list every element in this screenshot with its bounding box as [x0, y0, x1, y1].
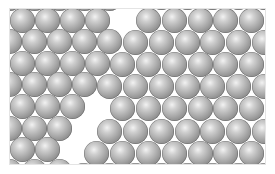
right-grain-sphere	[110, 96, 135, 121]
right-grain-sphere	[162, 96, 187, 121]
right-grain-sphere	[175, 30, 200, 55]
right-grain-sphere	[188, 52, 213, 77]
right-grain-sphere	[123, 119, 148, 144]
right-grain-sphere	[136, 9, 161, 33]
lattice-frame	[10, 9, 265, 164]
left-grain-sphere	[60, 94, 85, 119]
right-grain-sphere	[226, 74, 251, 99]
right-grain-sphere	[213, 52, 238, 77]
right-grain-sphere	[188, 96, 213, 121]
right-grain-sphere	[213, 96, 238, 121]
right-grain-sphere	[149, 74, 174, 99]
right-grain-sphere	[84, 141, 109, 164]
right-grain-sphere	[175, 74, 200, 99]
left-grain-sphere	[35, 94, 60, 119]
right-grain-sphere	[200, 119, 225, 144]
right-grain-sphere	[110, 141, 135, 164]
right-grain-sphere	[162, 9, 187, 33]
right-grain-sphere	[123, 74, 148, 99]
right-grain-sphere	[136, 52, 161, 77]
right-grain-sphere	[188, 141, 213, 164]
right-grain-sphere	[162, 141, 187, 164]
right-grain-sphere	[110, 52, 135, 77]
right-grain-sphere	[97, 74, 122, 99]
right-grain-sphere	[136, 141, 161, 164]
right-grain-sphere	[136, 96, 161, 121]
right-grain-sphere	[97, 119, 122, 144]
left-grain-sphere	[10, 94, 35, 119]
right-grain-sphere	[123, 30, 148, 55]
right-grain-sphere	[239, 9, 264, 33]
right-grain-sphere	[200, 30, 225, 55]
left-grain-sphere	[47, 29, 72, 54]
right-grain-sphere	[252, 119, 265, 144]
right-grain-sphere	[213, 9, 238, 33]
left-grain-sphere	[97, 29, 122, 54]
left-grain-sphere	[72, 29, 97, 54]
left-grain-sphere	[22, 29, 47, 54]
right-grain-sphere	[239, 52, 264, 77]
right-grain-sphere	[226, 119, 251, 144]
right-grain-sphere	[213, 141, 238, 164]
right-grain-sphere	[226, 30, 251, 55]
right-grain-sphere	[162, 52, 187, 77]
right-grain-sphere	[239, 141, 264, 164]
right-grain-sphere	[252, 30, 265, 55]
right-grain-sphere	[188, 9, 213, 33]
right-grain-sphere	[175, 119, 200, 144]
right-grain-sphere	[149, 30, 174, 55]
right-grain-sphere	[149, 119, 174, 144]
right-grain-sphere	[239, 96, 264, 121]
